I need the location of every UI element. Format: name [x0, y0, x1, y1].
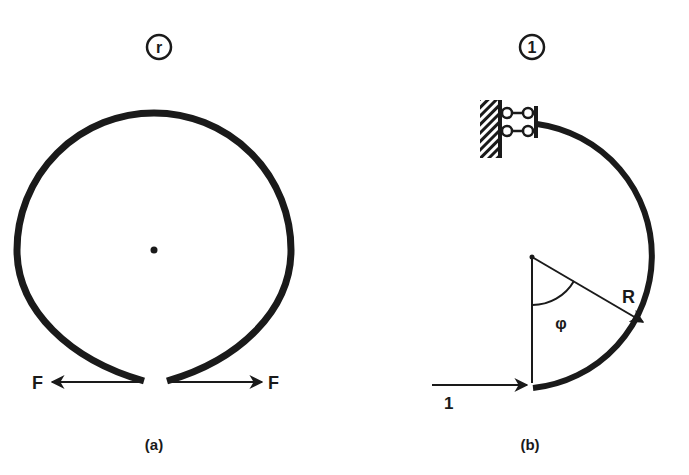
panel-a-caption: (a) [145, 436, 163, 453]
fixed-wall-support [480, 100, 500, 158]
angle-arc [532, 281, 574, 305]
panel-b-tag: 1 [520, 35, 544, 59]
radius-label: R [622, 287, 635, 307]
panel-a-tag: r [147, 35, 171, 59]
unit-load-label: 1 [444, 394, 453, 413]
panel-a: r F F (a) [17, 35, 291, 453]
center-dot [151, 247, 158, 254]
diagram-canvas: r F F (a) 1 [0, 0, 689, 475]
panel-b: 1 R φ 1 (b) [432, 35, 652, 453]
sliding-support [502, 106, 536, 138]
panel-b-tag-label: 1 [528, 39, 537, 56]
half-ring-arc [533, 124, 652, 388]
force-label-left: F [32, 373, 43, 393]
angle-label: φ [555, 315, 566, 332]
panel-a-tag-label: r [156, 39, 162, 56]
force-label-right: F [268, 373, 279, 393]
panel-b-caption: (b) [520, 436, 539, 453]
